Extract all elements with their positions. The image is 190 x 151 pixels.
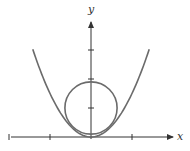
diagram-canvas: x y — [0, 0, 190, 151]
y-axis-label: y — [87, 3, 95, 16]
x-axis-label: x — [177, 130, 184, 143]
